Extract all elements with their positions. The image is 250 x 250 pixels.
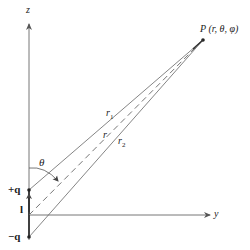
plus-q-label: +q [8,184,20,195]
theta-arc [29,168,58,181]
r1-label: r1 [106,108,113,121]
minus-q-label: −q [8,231,20,242]
separation-label: l [20,204,23,215]
r1-line [29,40,203,190]
y-axis-label: y [214,209,218,219]
z-axis-label: z [26,5,30,15]
r2-label: r2 [118,136,125,149]
r1-label-sub: 1 [110,113,114,121]
minus-q-dot [27,235,31,239]
r2-label-sub: 2 [122,141,126,149]
theta-label: θ [39,157,44,168]
r-line [29,40,203,215]
point-P-text: P (r, θ, φ) [200,23,238,34]
plus-q-dot [27,188,31,192]
r2-line [29,40,203,237]
point-P-stub [193,40,203,49]
dipole-diagram [0,0,250,250]
point-P-label: P (r, θ, φ) [200,24,238,34]
r-label: r [103,130,107,140]
